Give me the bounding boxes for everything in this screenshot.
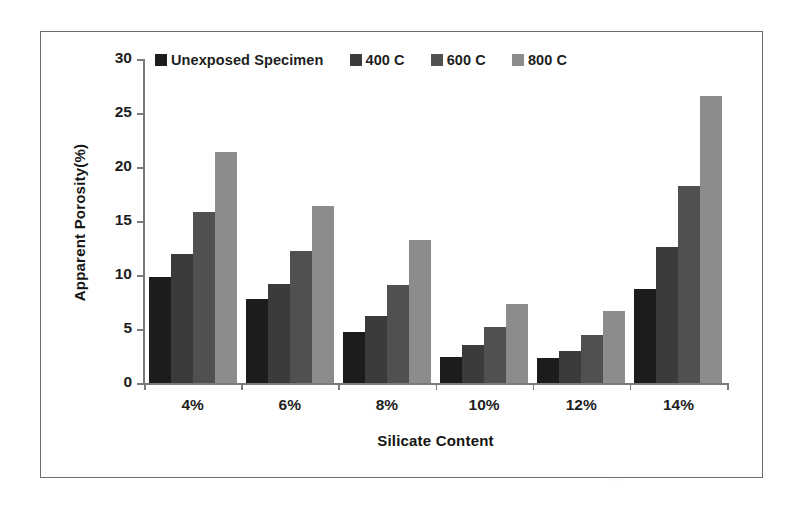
bar-group: 4% [144,59,241,383]
x-axis-title: Silicate Content [144,432,727,449]
x-axis-tick-label: 8% [338,396,435,414]
bar [290,251,312,383]
x-axis-tick-label: 4% [144,396,241,414]
y-axis-tick-label: 10 [115,265,132,283]
bar-group: 14% [630,59,727,383]
y-axis-tick-label: 0 [123,373,132,391]
bar-group: 6% [241,59,338,383]
bar [409,240,431,383]
bar [246,299,268,383]
y-axis-tick: 20 [137,167,144,169]
bar [312,206,334,383]
bar [365,316,387,383]
bar [171,254,193,383]
bar [634,289,656,383]
bar [603,311,625,383]
y-axis-tick-label: 5 [123,319,132,337]
bar [343,332,365,383]
bar [581,335,603,383]
bar [678,186,700,383]
plot-area: 051015202530 4%6%8%10%12%14% [144,59,727,383]
bar [149,277,171,383]
bar [484,327,506,383]
bar [440,357,462,383]
y-axis-tick: 0 [137,383,144,385]
bar-groups: 4%6%8%10%12%14% [144,59,727,383]
x-axis-tick [533,383,535,390]
x-axis-tick [727,383,729,390]
x-axis-tick [338,383,340,390]
y-axis-tick-label: 15 [115,211,132,229]
x-axis-tick-label: 10% [436,396,533,414]
bar [193,212,215,383]
y-axis-tick: 15 [137,221,144,223]
y-axis-title-text: Apparent Porosity(%) [72,143,89,300]
x-axis-tick-label: 14% [630,396,727,414]
x-axis-tick [630,383,632,390]
bar [506,304,528,383]
bar [559,351,581,383]
x-axis-tick-label: 6% [241,396,338,414]
bar [268,284,290,383]
bar [537,358,559,383]
bar-group: 8% [338,59,435,383]
bar [387,285,409,383]
bar [462,345,484,383]
x-axis-tick [241,383,243,390]
y-axis-tick: 10 [137,275,144,277]
y-axis-tick-label: 25 [115,103,132,121]
y-axis-tick: 5 [137,329,144,331]
x-axis-tick [144,383,146,390]
bar [656,247,678,383]
bar [700,96,722,383]
y-axis-tick: 30 [137,59,144,61]
y-axis-title: Apparent Porosity(%) [66,97,94,347]
x-axis-tick-label: 12% [533,396,630,414]
bar [215,152,237,383]
x-axis-tick [436,383,438,390]
y-axis-tick-label: 30 [115,49,132,67]
bar-group: 10% [436,59,533,383]
y-axis-tick-label: 20 [115,157,132,175]
y-axis-tick: 25 [137,113,144,115]
bar-group: 12% [533,59,630,383]
